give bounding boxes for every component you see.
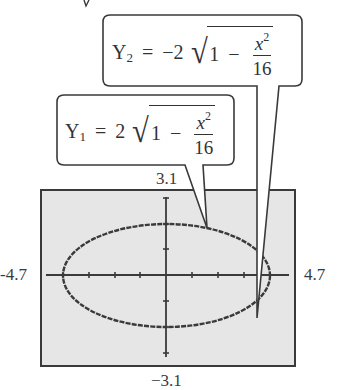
y1-equals: = xyxy=(95,120,106,143)
y2-var: Y xyxy=(112,41,126,64)
y1-radical: √ 1 − x2 16 xyxy=(131,105,215,157)
y1-denominator: 16 xyxy=(194,135,213,157)
y2-num-exponent: 2 xyxy=(263,30,269,44)
y2-equals: = xyxy=(142,41,153,64)
y2-radicand-lead: 1 xyxy=(209,43,219,66)
y2-denominator: 16 xyxy=(252,56,271,78)
y1-subscript: 1 xyxy=(79,129,86,145)
y1-num-var: x xyxy=(196,112,204,133)
y1-radicand-lead: 1 xyxy=(151,122,161,145)
y2-radical: √ 1 − x2 16 xyxy=(190,26,274,78)
y1-numerator: x2 xyxy=(194,110,212,135)
radical-sign-icon: √ xyxy=(132,114,149,148)
y1-equation: Y1 = 2 √ 1 − x2 16 xyxy=(65,101,215,161)
y2-equation: Y2 = −2 √ 1 − x2 16 xyxy=(112,22,273,82)
y1-num-exponent: 2 xyxy=(205,109,211,123)
xmax-label: 4.7 xyxy=(304,266,325,283)
radical-sign-icon: √ xyxy=(190,35,207,69)
y2-subscript: 2 xyxy=(126,50,133,66)
ymax-label: 3.1 xyxy=(156,170,177,187)
ymin-label: −3.1 xyxy=(151,372,182,389)
xmin-label: -4.7 xyxy=(0,266,27,283)
y1-coefficient: 2 xyxy=(115,120,125,143)
y2-radicand: 1 − x2 16 xyxy=(207,26,273,78)
y2-numerator: x2 xyxy=(253,31,271,56)
y1-fraction: x2 16 xyxy=(194,110,213,157)
y2-minus: − xyxy=(228,43,239,66)
y1-minus: − xyxy=(170,122,181,145)
y1-var: Y xyxy=(65,120,79,143)
cropped-radical-fragment xyxy=(84,0,89,6)
y2-num-var: x xyxy=(255,33,263,54)
y2-coefficient: −2 xyxy=(162,41,183,64)
y1-radicand: 1 − x2 16 xyxy=(149,105,215,157)
y2-fraction: x2 16 xyxy=(252,31,271,78)
